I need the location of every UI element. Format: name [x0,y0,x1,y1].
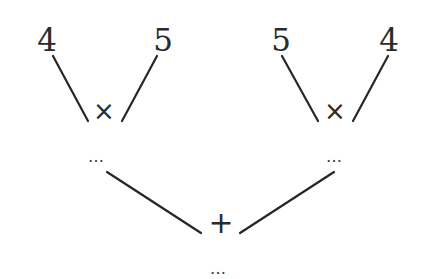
left-subtree-left-operand: 4 [37,22,57,58]
right-times-operator: × [324,96,346,126]
edge-right-4-to-times [353,56,388,121]
right-subtree: 5 4 × … [271,22,399,166]
right-subtree-left-operand: 5 [271,22,291,58]
edge-left-4-to-times [53,56,88,121]
left-times-operator: × [93,96,115,126]
right-subtree-result: … [326,147,342,166]
root-result: … [210,259,226,278]
root-node: + … [107,172,334,278]
edge-left-result-to-plus [107,172,201,233]
left-subtree: 4 5 × … [37,22,173,166]
edge-right-result-to-plus [240,172,334,233]
edge-right-5-to-times [282,56,318,121]
right-subtree-right-operand: 4 [379,22,399,58]
left-subtree-right-operand: 5 [153,22,173,58]
edge-left-5-to-times [122,56,157,121]
expression-tree-diagram: 4 5 × … 5 4 × … + … [0,0,422,279]
left-subtree-result: … [88,147,104,166]
plus-operator: + [208,205,233,240]
